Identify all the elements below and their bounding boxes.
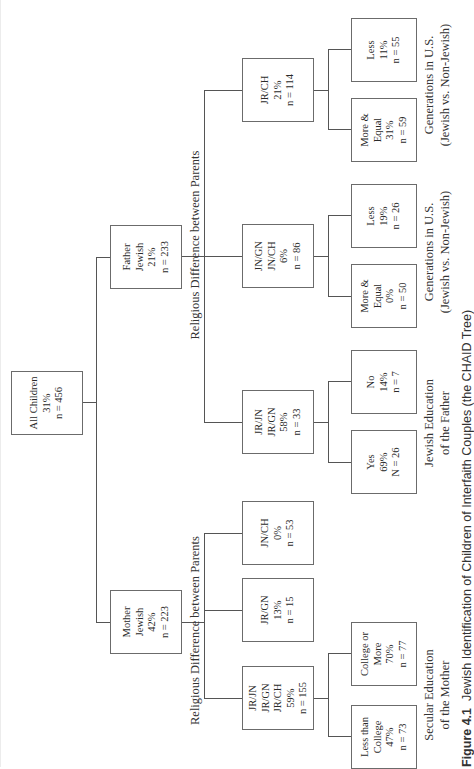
node-line: 42% [146, 606, 159, 638]
leaf-jrch-more-equal: More & Equal 31% n = 59 [351, 98, 417, 162]
connector [314, 422, 328, 423]
node-text: Less 11% n = 55 [365, 37, 403, 64]
connector [314, 256, 328, 257]
node-line: 6% [278, 241, 291, 271]
node-line: n = 59 [397, 113, 410, 147]
split-label-line: of the Mother [437, 635, 453, 755]
figure-caption: Figure 4.1 Jewish Identification of Chil… [460, 310, 474, 767]
node-line: 21% [272, 74, 285, 106]
split-label-mother: Religious Difference between Parents [187, 536, 203, 725]
node-line: College [372, 717, 385, 757]
node-line: JR/JN [253, 407, 266, 436]
split-label-generations-2: Generations in U.S. (Jewish vs. Non-Jewi… [421, 177, 453, 327]
node-text: Less 19% n = 26 [365, 203, 403, 230]
node-line: 31% [384, 113, 397, 147]
node-line: 14% [378, 371, 391, 393]
split-label-line: Generations in U.S. [421, 177, 437, 327]
connector [328, 462, 351, 463]
split-label-line: of the Father [437, 368, 453, 478]
node-text: JN/CH 0% n = 53 [259, 518, 297, 547]
connector [204, 90, 242, 91]
node-line: JR/GN [259, 682, 272, 714]
node-line: 19% [378, 203, 391, 230]
node-text: No 14% n = 7 [365, 371, 403, 393]
node-mother-jrjn-jrgn-jrch: JR/JN JR/GN JR/CH 59% n = 155 [242, 666, 314, 730]
node-line: n = 15 [284, 595, 297, 624]
split-label-line: (Jewish vs. Non-Jewish) [437, 10, 453, 160]
node-mother-jewish: Mother Jewish 42% n = 223 [110, 590, 182, 654]
node-line: 0% [384, 279, 397, 313]
node-line: More & [359, 279, 372, 313]
node-line: N = 26 [390, 447, 403, 476]
node-text: JR/GN 13% n = 15 [259, 595, 297, 624]
node-line: 69% [378, 447, 391, 476]
node-line: JN/GN [253, 241, 266, 271]
connector [204, 610, 242, 611]
connector [328, 381, 351, 382]
connector [204, 256, 242, 257]
leaf-jngn-more-equal: More & Equal 0% n = 50 [351, 264, 417, 328]
node-line: 31% [41, 377, 54, 430]
connector [96, 622, 110, 623]
node-text: JR/JN JR/GN 58% n = 33 [253, 407, 303, 436]
node-text: More & Equal 0% n = 50 [359, 279, 409, 313]
node-line: 13% [272, 595, 285, 624]
connector [204, 422, 242, 423]
connector [328, 49, 329, 130]
node-line: Father [121, 241, 134, 273]
connector [328, 129, 351, 130]
connector [328, 215, 351, 216]
node-line: n = 50 [397, 279, 410, 313]
node-line: 11% [378, 37, 391, 64]
node-line: n = 223 [159, 606, 172, 638]
node-line: 70% [384, 632, 397, 676]
connector [314, 698, 328, 699]
node-father-jrjn-jrgn: JR/JN JR/GN 58% n = 33 [242, 390, 314, 454]
node-line: n = 114 [284, 74, 297, 106]
node-text: More & Equal 31% n = 59 [359, 113, 409, 147]
node-father-jrch: JR/CH 21% n = 114 [242, 58, 314, 122]
node-line: Less [365, 37, 378, 64]
leaf-mother-less-than-college: Less than College 47% n = 73 [351, 705, 417, 769]
node-text: Father Jewish 21% n = 233 [121, 241, 171, 273]
connector [314, 90, 328, 91]
connector [83, 402, 96, 403]
node-text: Less than College 47% n = 73 [359, 717, 409, 757]
split-label-jewish-education-father: Jewish Education of the Father [421, 368, 453, 478]
split-label-text: Religious Difference between Parents [188, 151, 202, 340]
node-line: n = 73 [397, 717, 410, 757]
node-line: 0% [272, 518, 285, 547]
node-line: JR/JN [247, 682, 260, 714]
node-line: 21% [146, 241, 159, 273]
connector [96, 257, 110, 258]
node-all-children: All Children 31% n = 456 [11, 371, 83, 435]
node-text: JR/CH 21% n = 114 [259, 74, 297, 106]
node-line: n = 77 [397, 632, 410, 676]
node-text: JN/GN JN/CH 6% n = 86 [253, 241, 303, 271]
leaf-jrch-less: Less 11% n = 55 [351, 18, 417, 82]
node-line: College or [359, 632, 372, 676]
caption-label: Figure 4.1 [460, 708, 474, 767]
connector [328, 653, 351, 654]
connector [328, 296, 351, 297]
split-label-text: Religious Difference between Parents [188, 536, 202, 725]
node-line: Less than [359, 717, 372, 757]
node-line: Jewish [134, 241, 147, 273]
connector [328, 215, 329, 297]
connector [96, 257, 97, 623]
split-label-line: (Jewish vs. Non-Jewish) [437, 177, 453, 327]
node-line: n = 155 [297, 682, 310, 714]
node-line: n = 7 [390, 371, 403, 393]
node-text: All Children 31% n = 456 [28, 377, 66, 430]
connector [204, 533, 205, 699]
leaf-jrjn-yes: Yes 69% N = 26 [351, 430, 417, 494]
node-mother-jnch: JN/CH 0% n = 53 [242, 501, 314, 565]
node-line: JR/CH [259, 74, 272, 106]
connector [328, 653, 329, 737]
node-line: JR/CH [272, 682, 285, 714]
node-line: JR/GN [259, 595, 272, 624]
leaf-jngn-less: Less 19% n = 26 [351, 184, 417, 248]
node-line: Mother [121, 606, 134, 638]
connector [204, 698, 242, 699]
node-line: n = 33 [291, 407, 304, 436]
